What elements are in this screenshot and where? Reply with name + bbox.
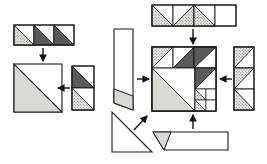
group-left-large-square <box>14 64 62 112</box>
diagram-canvas: Quilt Block Assembly Diagram White / bac… <box>0 0 267 164</box>
group-left-top-strip <box>14 25 74 45</box>
unit-right-top-2 <box>173 5 194 26</box>
unit-center-large <box>152 68 195 111</box>
unit-right-col-1 <box>234 47 254 68</box>
group-right-side-column <box>234 47 254 110</box>
unit-left-top-1 <box>14 25 34 45</box>
quilt-assembly-svg <box>0 0 267 164</box>
unit-right-top-3 <box>194 5 215 26</box>
unit-center-bottom-right <box>195 89 216 111</box>
group-left-side-column <box>72 66 94 110</box>
group-right-top-strip <box>152 5 236 26</box>
unit-center-top-middle <box>173 47 194 68</box>
unit-left-col-2 <box>72 88 94 110</box>
unit-right-col-3 <box>234 89 254 110</box>
unit-left-top-3 <box>54 25 74 45</box>
unit-right-top-1 <box>152 5 173 26</box>
unit-left-top-2 <box>34 25 54 45</box>
group-center-block <box>152 47 216 111</box>
group-left-tall-strip <box>114 29 133 110</box>
unit-left-col-1 <box>72 66 94 88</box>
unit-center-top-left <box>152 47 173 68</box>
group-bottom-horizontal-strip <box>153 132 228 150</box>
unit-center-middle-right <box>195 68 216 89</box>
unit-center-top-right <box>194 47 216 68</box>
unit-right-top-4 <box>215 5 236 26</box>
unit-right-col-2 <box>234 68 254 89</box>
